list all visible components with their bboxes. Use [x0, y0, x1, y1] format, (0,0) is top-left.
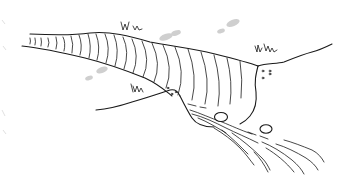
grass-tuft-icon	[121, 22, 277, 92]
crevasse-lines	[30, 34, 242, 106]
meltwater-stream	[188, 104, 324, 174]
glacier-sketch	[0, 0, 348, 192]
right-hillside	[258, 44, 332, 66]
faint-edge-marks	[2, 20, 6, 134]
glacier-illustration: Glacier valley sketch	[0, 0, 348, 192]
glacier-snout	[240, 66, 258, 124]
valley-wall	[180, 96, 214, 127]
